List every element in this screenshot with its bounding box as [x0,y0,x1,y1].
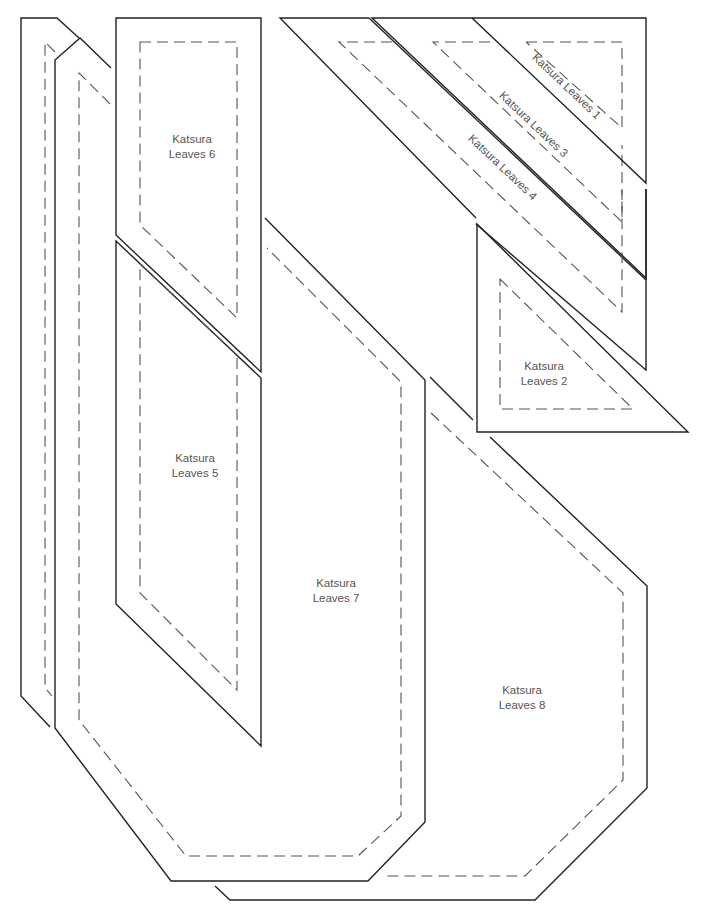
cut-line [476,189,646,370]
piece-leaves-6: Katsura Leaves 6 [116,18,261,372]
cut-line [280,18,476,218]
cut-line [477,224,688,432]
label-leaves-5b: Leaves 5 [172,467,219,479]
seam-line [383,413,623,876]
cut-line [116,18,261,372]
pattern-canvas: Katsura Leaves 7 Katsura Leaves 6 Katsur… [0,0,713,924]
piece-leaves-4: Katsura Leaves 4 [280,18,646,370]
piece-leaves-3: Katsura Leaves 3 [372,18,646,278]
label-leaves-8b: Leaves 8 [499,699,546,711]
cut-line [369,18,646,280]
piece-leaves-5: Katsura Leaves 5 [116,241,261,746]
cut-line [116,241,261,746]
label-leaves-6: Katsura [172,133,212,145]
piece-left-strip [21,18,79,727]
label-leaves-2: Katsura [524,360,564,372]
seam-line [79,73,401,856]
label-leaves-6b: Leaves 6 [169,148,216,160]
seam-line [339,42,622,312]
label-leaves-8: Katsura [502,684,542,696]
seam-line [500,279,633,409]
label-leaves-1: Katsura Leaves 1 [530,51,603,121]
cut-line [372,18,646,278]
piece-leaves-2: Katsura Leaves 2 [477,224,688,432]
cut-line [21,18,79,727]
label-leaves-5: Katsura [175,452,215,464]
cut-line [55,38,425,881]
cut-line [430,377,473,420]
piece-leaves-8: Katsura Leaves 8 [215,377,647,900]
label-leaves-2b: Leaves 2 [521,375,568,387]
label-leaves-7: Katsura [316,577,356,589]
piece-leaves-7: Katsura Leaves 7 [55,38,425,881]
seam-line [45,42,55,696]
cut-line [215,437,647,900]
label-leaves-7b: Leaves 7 [313,592,360,604]
